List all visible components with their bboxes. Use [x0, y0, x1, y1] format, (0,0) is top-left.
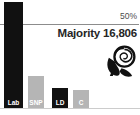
- bar-lab: Lab: [4, 2, 23, 108]
- bar-label-lab: Lab: [4, 99, 23, 106]
- bar-chart: LabSNPLDC: [0, 0, 140, 115]
- bar-label-ld: LD: [52, 99, 68, 106]
- election-result-widget: 50% Majority 16,806 LabSNPLDC: [0, 0, 140, 115]
- bar-c: C: [73, 90, 89, 108]
- bar-ld: LD: [52, 88, 68, 108]
- bar-label-c: C: [73, 99, 89, 106]
- bar-label-snp: SNP: [28, 99, 44, 106]
- bar-snp: SNP: [28, 76, 44, 108]
